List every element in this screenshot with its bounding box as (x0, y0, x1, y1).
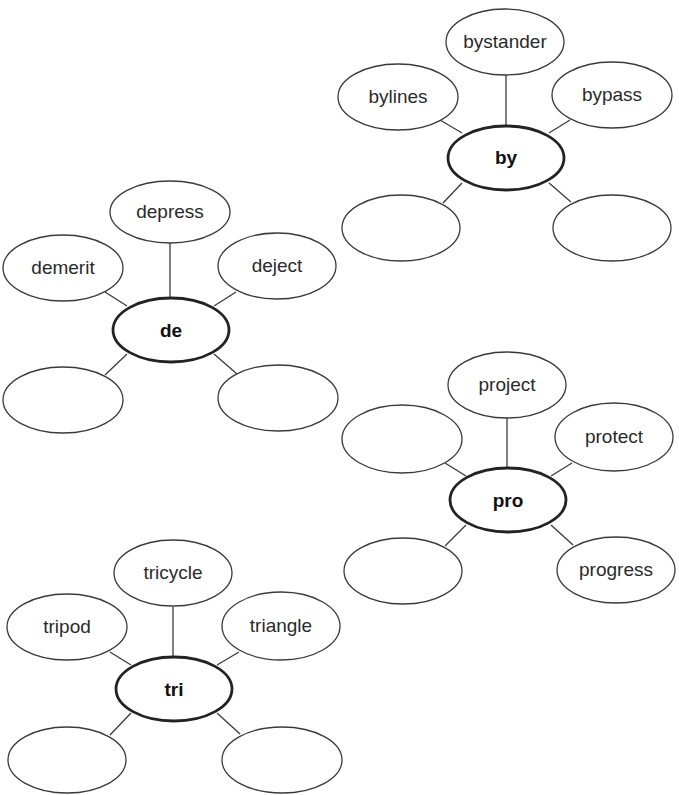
word-bubble-bottom-left-blank[interactable] (342, 195, 460, 261)
word-label-left: demerit (31, 257, 95, 278)
word-bubble-bottom-left-blank[interactable] (3, 367, 123, 433)
word-label-right: deject (252, 255, 303, 276)
root-label: pro (493, 490, 524, 511)
word-bubble-bottom-right-blank[interactable] (218, 365, 338, 431)
connector (214, 292, 236, 306)
word-bubble-bottom-right-blank[interactable] (222, 727, 342, 793)
cluster-pro: project protect progress pro (342, 352, 675, 604)
word-label-top: tricycle (143, 562, 202, 583)
root-label: by (495, 147, 518, 168)
connector (549, 183, 571, 202)
word-label-top: project (478, 374, 536, 395)
connector (214, 354, 237, 374)
word-bubble-bottom-left-blank[interactable] (344, 538, 462, 604)
connector (217, 652, 239, 665)
connector (110, 652, 131, 665)
connector (551, 463, 572, 476)
connector (551, 525, 573, 545)
cluster-de: depress demerit deject de (3, 181, 338, 433)
word-label-left: bylines (368, 86, 427, 107)
word-label-right: protect (585, 426, 644, 447)
root-label: de (160, 320, 182, 341)
word-bubble-left-blank[interactable] (342, 405, 462, 473)
root-label: tri (165, 679, 184, 700)
connector (105, 292, 127, 306)
connector (110, 713, 131, 735)
word-label-right: triangle (250, 615, 312, 636)
word-web-diagram: bystander bylines bypass by depress deme… (0, 0, 679, 795)
word-label-top: bystander (463, 31, 547, 52)
connector (443, 183, 462, 203)
word-label-bottom-right: progress (579, 559, 653, 580)
connector (549, 120, 570, 133)
connector (440, 120, 462, 133)
connector (445, 463, 466, 476)
word-label-left: tripod (43, 616, 91, 637)
cluster-tri: tricycle tripod triangle tri (7, 540, 342, 793)
word-bubble-bottom-left-blank[interactable] (8, 727, 126, 793)
connector (217, 713, 240, 734)
word-bubble-bottom-right-blank[interactable] (553, 195, 671, 261)
cluster-by: bystander bylines bypass by (338, 9, 672, 261)
word-label-top: depress (136, 201, 204, 222)
connector (445, 525, 466, 546)
word-label-right: bypass (582, 84, 642, 105)
connector (105, 354, 127, 375)
